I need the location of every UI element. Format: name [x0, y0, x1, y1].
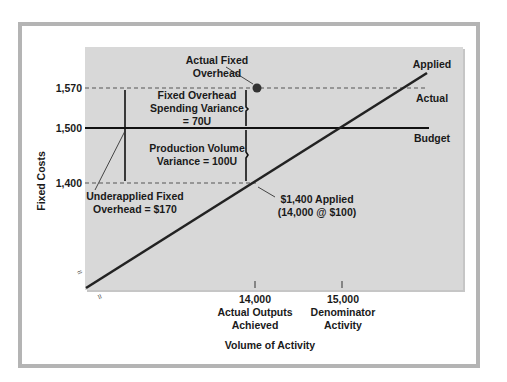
xtick-label-14000: 14,000 Actual Outputs Achieved	[205, 293, 305, 332]
label-line: Variance = 100U	[147, 155, 247, 168]
ytick-1570: 1,570	[42, 82, 82, 94]
label-line: Underapplied Fixed	[85, 190, 185, 203]
x-axis-label: Volume of Activity	[200, 339, 340, 351]
tick-value: 14,000	[205, 293, 305, 306]
y-axis-label: Fixed Costs	[35, 136, 47, 226]
label-line: Spending Variance	[147, 102, 247, 115]
actual-overhead-point	[253, 84, 262, 93]
legend-budget: Budget	[402, 132, 462, 145]
ytick-1500: 1,500	[42, 122, 82, 134]
xtick-label-15000: 15,000 Denominator Activity	[293, 293, 393, 332]
actual-fixed-overhead-label: Actual Fixed Overhead	[167, 54, 267, 80]
volume-variance-label: Production Volume Variance = 100U	[147, 142, 247, 168]
label-line: (14,000 @ $100)	[267, 206, 367, 219]
x-axis-break-icon: ≈	[94, 292, 105, 301]
tick-desc: Achieved	[205, 319, 305, 332]
ytick-1400: 1,400	[42, 177, 82, 189]
legend-actual: Actual	[402, 92, 462, 105]
label-line: Overhead	[167, 67, 267, 80]
underapplied-label: Underapplied Fixed Overhead = $170	[85, 190, 185, 216]
label-line: Overhead = $170	[85, 203, 185, 216]
label-line: Fixed Overhead	[147, 89, 247, 102]
label-line: $1,400 Applied	[267, 193, 367, 206]
applied-line	[86, 73, 427, 288]
label-line: = 70U	[147, 115, 247, 128]
tick-desc: Actual Outputs	[205, 306, 305, 319]
label-line: Production Volume	[147, 142, 247, 155]
spending-variance-label: Fixed Overhead Spending Variance = 70U	[147, 89, 247, 128]
tick-desc: Denominator	[293, 306, 393, 319]
applied-point-label: $1,400 Applied (14,000 @ $100)	[267, 193, 367, 219]
label-line: Actual Fixed	[167, 54, 267, 67]
legend-applied: Applied	[402, 58, 462, 71]
underapplied-leader	[95, 131, 125, 190]
tick-value: 15,000	[293, 293, 393, 306]
tick-desc: Activity	[293, 319, 393, 332]
y-axis-break-icon: ≈	[75, 267, 84, 278]
